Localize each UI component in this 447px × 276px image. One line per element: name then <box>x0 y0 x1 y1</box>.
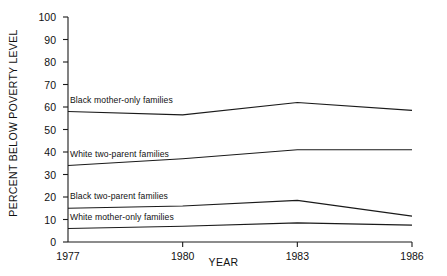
x-axis-title-text: YEAR <box>209 256 239 268</box>
plot-area <box>0 0 447 276</box>
x-axis-ticks <box>183 242 412 247</box>
series-label-1: White two-parent families <box>70 149 169 159</box>
series-label-0: Black mother-only families <box>70 95 173 105</box>
x-axis-title: YEAR <box>0 256 447 268</box>
chart-figure: PERCENT BELOW POVERTY LEVEL 010203040506… <box>0 0 447 276</box>
axis-spines <box>68 17 412 242</box>
series-label-3: White mother-only families <box>70 212 174 222</box>
series-lines <box>68 103 412 229</box>
series-label-2: Black two-parent families <box>70 191 168 201</box>
series-line-3 <box>68 223 412 229</box>
y-axis-ticks <box>63 17 68 242</box>
